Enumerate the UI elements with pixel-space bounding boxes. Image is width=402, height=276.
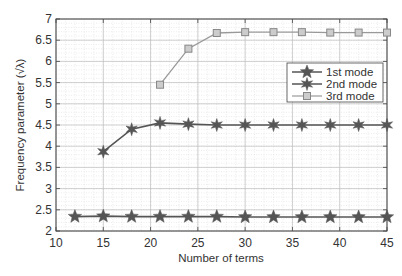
square-marker-icon — [304, 93, 311, 100]
y-tick-label: 7 — [45, 12, 52, 26]
y-tick-label: 5 — [45, 97, 52, 111]
y-tick-label: 5.5 — [35, 76, 52, 90]
y-tick-label: 3.5 — [35, 160, 52, 174]
series-1st-mode — [68, 209, 393, 223]
x-tick-label: 40 — [333, 236, 347, 250]
legend-label-2nd-mode: 2nd mode — [326, 78, 377, 90]
y-tick-label: 6.5 — [35, 33, 52, 47]
x-tick-label: 20 — [144, 236, 158, 250]
legend-label-1st-mode: 1st mode — [326, 66, 373, 78]
x-tick-label: 45 — [380, 236, 394, 250]
y-axis-label: Frequency parameter (√λ) — [14, 58, 26, 191]
x-tick-label: 35 — [286, 236, 300, 250]
x-tick-label: 25 — [191, 236, 205, 250]
y-tick-label: 2.5 — [35, 203, 52, 217]
legend-label-3rd-mode: 3rd mode — [326, 90, 375, 102]
y-tick-label: 2 — [45, 224, 52, 238]
y-tick-label: 3 — [45, 182, 52, 196]
y-tick-label: 4 — [45, 139, 52, 153]
y-tick-label: 4.5 — [35, 118, 52, 132]
x-tick-label: 15 — [97, 236, 111, 250]
x-tick-label: 10 — [49, 236, 63, 250]
x-axis-label: Number of terms — [178, 252, 264, 264]
line-chart: 101520253035404522.533.544.555.566.57 Nu… — [0, 0, 402, 276]
y-tick-label: 6 — [45, 54, 52, 68]
x-tick-label: 30 — [238, 236, 252, 250]
series-group — [68, 29, 393, 223]
legend: 1st mode 2nd mode 3rd mode — [287, 63, 383, 102]
